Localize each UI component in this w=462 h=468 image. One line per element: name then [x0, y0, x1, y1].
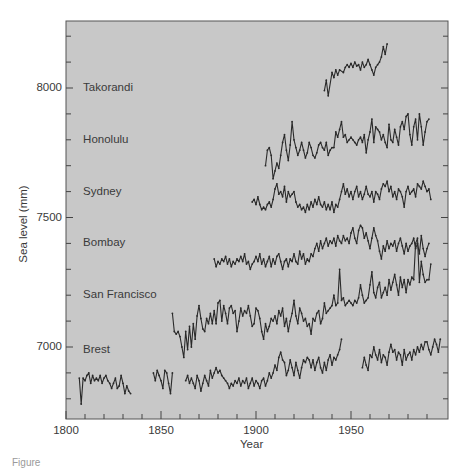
x-tick-label: 1900	[236, 424, 276, 436]
series-label-sydney: Sydney	[83, 185, 121, 197]
series-label-takorandi: Takorandi	[83, 81, 133, 93]
figure-caption: Figure	[12, 457, 40, 468]
x-tick-label: 1800	[46, 424, 86, 436]
series-label-brest: Brest	[83, 343, 110, 355]
series-label-bombay: Bombay	[83, 236, 125, 248]
y-axis-title: Sea level (mm)	[17, 179, 29, 269]
y-tick-label: 8000	[12, 81, 62, 93]
series-label-honolulu: Honolulu	[83, 133, 128, 145]
y-tick-label: 7000	[12, 340, 62, 352]
series-label-san-francisco: San Francisco	[83, 288, 157, 300]
x-tick-label: 1850	[141, 424, 181, 436]
x-axis-title: Year	[240, 438, 263, 450]
x-tick-label: 1950	[331, 424, 371, 436]
